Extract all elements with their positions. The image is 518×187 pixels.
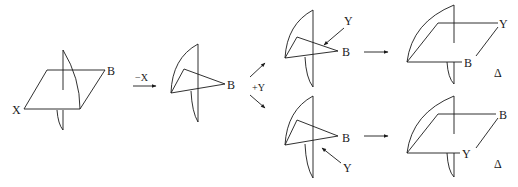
label-y: Y bbox=[462, 147, 471, 161]
operation-label: −X bbox=[135, 72, 149, 83]
label-delta: Δ bbox=[494, 157, 502, 171]
fin-curve-lower bbox=[447, 153, 454, 177]
label-b: B bbox=[464, 56, 472, 70]
figure-3-bottom: B Y bbox=[285, 96, 352, 178]
arrow-down-right-icon bbox=[250, 95, 265, 108]
fin-curve-upper bbox=[63, 50, 80, 109]
fin-curve-lower bbox=[191, 91, 198, 122]
label-y: Y bbox=[344, 14, 353, 28]
arrow-pointer-icon bbox=[324, 28, 344, 45]
plane-triangle bbox=[285, 120, 338, 145]
plane-right-edge bbox=[476, 27, 498, 56]
figure-1: X B bbox=[12, 50, 115, 130]
label-b: B bbox=[342, 45, 350, 59]
label-b: B bbox=[227, 78, 235, 92]
plane-right-edge bbox=[476, 118, 498, 148]
label-delta: Δ bbox=[494, 66, 502, 80]
step-minus-x: −X bbox=[133, 72, 156, 86]
fin-curve-lower bbox=[305, 57, 313, 87]
operation-label: +Y bbox=[252, 82, 265, 93]
fin-curve-lower bbox=[305, 144, 313, 178]
label-y: Y bbox=[499, 17, 508, 31]
fin-curve-lower bbox=[447, 62, 454, 84]
rotation-diagram: X B −X B +Y B Y B Y bbox=[0, 0, 518, 187]
plane-parallelogram bbox=[24, 70, 105, 109]
figure-2: B bbox=[171, 44, 235, 122]
label-b: B bbox=[107, 64, 115, 78]
label-x: X bbox=[12, 103, 21, 117]
label-b: B bbox=[499, 108, 507, 122]
arrow-pointer-icon bbox=[322, 148, 341, 163]
figure-4-top: Y B Δ bbox=[407, 5, 508, 84]
fin-curve-lower bbox=[57, 110, 63, 130]
step-plus-y: +Y bbox=[250, 63, 265, 108]
label-b: B bbox=[342, 131, 350, 145]
figure-3-top: B Y bbox=[285, 10, 353, 87]
arrow-up-right-icon bbox=[250, 63, 265, 77]
figure-4-bottom: B Y Δ bbox=[407, 96, 507, 177]
label-y: Y bbox=[343, 161, 352, 175]
